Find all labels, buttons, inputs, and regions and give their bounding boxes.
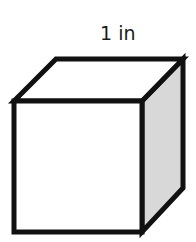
cube-diagram: [0, 0, 196, 242]
cube-front-face: [14, 101, 142, 232]
